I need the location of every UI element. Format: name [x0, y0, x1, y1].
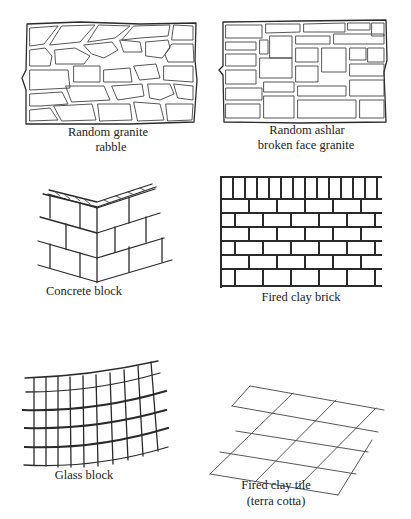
label-concrete-block: Concrete block — [46, 284, 122, 298]
label-glass-block: Glass block — [55, 468, 114, 482]
label-rabble: rabble — [95, 140, 126, 154]
label-broken-face-granite: broken face granite — [258, 138, 354, 152]
concrete-block-drawing — [38, 184, 172, 282]
glass-block-drawing — [23, 361, 168, 467]
label-random-ashlar: Random ashlar — [269, 123, 344, 137]
label-fired-clay-brick: Fired clay brick — [261, 290, 340, 304]
random-granite-rubble-drawing — [22, 22, 197, 124]
random-ashlar-drawing — [219, 20, 387, 123]
label-fired-clay-tile: Fired clay tile — [241, 478, 310, 492]
masonry-drawings — [0, 0, 411, 519]
label-random-granite: Random granite — [68, 125, 148, 139]
fired-clay-brick-drawing — [221, 177, 381, 287]
label-terra-cotta: (terra cotta) — [247, 494, 306, 508]
masonry-types-diagram: Random granite rabble Random ashlar brok… — [0, 0, 411, 519]
